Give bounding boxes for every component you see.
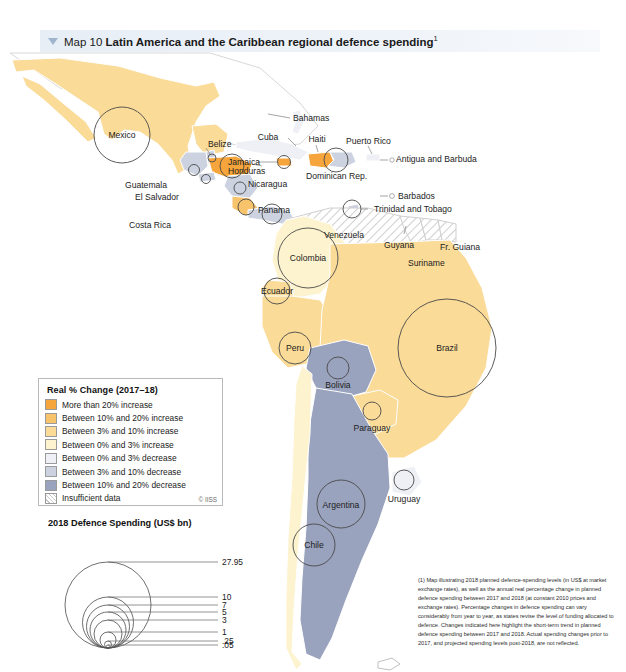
label-dominican-republic: Dominican Rep. bbox=[306, 171, 367, 181]
scale-circle-3 bbox=[94, 620, 122, 648]
spending-scale-legend: 2018 Defence Spending (US$ bn) 27.95 10 bbox=[40, 518, 270, 663]
label-venezuela: Venezuela bbox=[324, 230, 364, 240]
legend-title: Real % Change (2017–18) bbox=[47, 385, 216, 395]
legend-label: Between 10% and 20% increase bbox=[62, 413, 183, 423]
legend-swatch bbox=[45, 466, 57, 477]
label-honduras: Honduras bbox=[228, 166, 265, 176]
legend-label: Between 0% and 3% decrease bbox=[62, 453, 177, 463]
label-belize: Belize bbox=[208, 139, 232, 149]
label-haiti: Haiti bbox=[308, 134, 325, 144]
label-mexico: Mexico bbox=[108, 130, 135, 140]
label-nicaragua: Nicaragua bbox=[248, 179, 287, 189]
legend-item[interactable]: Between 3% and 10% increase bbox=[45, 425, 216, 438]
label-bahamas: Bahamas bbox=[293, 113, 329, 123]
label-fr-guiana: Fr. Guiana bbox=[440, 242, 480, 252]
legend-swatch bbox=[45, 453, 57, 464]
legend-label: Between 3% and 10% decrease bbox=[62, 467, 181, 477]
country-el-salvador bbox=[198, 172, 216, 182]
country-antigua-and-barbuda bbox=[390, 158, 394, 162]
label-cuba: Cuba bbox=[258, 132, 279, 142]
label-bolivia: Bolivia bbox=[325, 380, 351, 390]
label-guatemala: Guatemala bbox=[125, 180, 167, 190]
scale-circle-1 bbox=[100, 632, 116, 648]
legend-item[interactable]: Between 3% and 10% decrease bbox=[45, 465, 216, 478]
country-guatemala bbox=[180, 152, 208, 176]
scale-value: .05 bbox=[222, 640, 234, 650]
legend-swatch bbox=[45, 439, 57, 450]
scale-circle-5 bbox=[90, 612, 126, 648]
legend-label: Between 0% and 3% increase bbox=[62, 440, 174, 450]
label-barbados: Barbados bbox=[398, 191, 435, 201]
label-el-salvador: El Salvador bbox=[135, 192, 179, 202]
label-costa-rica: Costa Rica bbox=[129, 220, 171, 230]
islands-falklands bbox=[378, 658, 400, 670]
legend-item[interactable]: Between 10% and 20% decrease bbox=[45, 478, 216, 491]
country-barbados bbox=[390, 194, 395, 199]
scale-value: 27.95 bbox=[222, 557, 243, 567]
label-paraguay: Paraguay bbox=[354, 423, 391, 433]
legend-panel: Real % Change (2017–18) More than 20% in… bbox=[38, 378, 223, 506]
label-suriname: Suriname bbox=[408, 258, 445, 268]
legend-label: Between 10% and 20% decrease bbox=[62, 480, 186, 490]
legend-swatch bbox=[45, 413, 57, 424]
legend-item[interactable]: Between 0% and 3% increase bbox=[45, 438, 216, 451]
label-puerto-rico: Puerto Rico bbox=[346, 136, 391, 146]
triangle-down-icon[interactable] bbox=[48, 38, 58, 45]
scale-circle-7 bbox=[87, 605, 130, 648]
label-brazil: Brazil bbox=[436, 343, 458, 353]
label-trinidad-and-tobago: Trinidad and Tobago bbox=[374, 204, 452, 214]
legend-item[interactable]: Insufficient data bbox=[45, 492, 216, 505]
label-guyana: Guyana bbox=[384, 240, 414, 250]
legend-swatch bbox=[45, 399, 57, 410]
scale-value: 3 bbox=[222, 615, 227, 625]
label-argentina: Argentina bbox=[323, 500, 360, 510]
legend-item[interactable]: Between 0% and 3% decrease bbox=[45, 452, 216, 465]
scale-title: 2018 Defence Spending (US$ bn) bbox=[48, 518, 270, 528]
legend-label: Insufficient data bbox=[62, 493, 121, 503]
label-chile: Chile bbox=[304, 540, 324, 550]
scale-value-labels: 27.95 10 7 5 3 1 .25 .05 bbox=[222, 557, 243, 650]
page-title: Map 10 Latin America and the Caribbean r… bbox=[64, 34, 438, 48]
map-number: Map 10 bbox=[64, 36, 102, 48]
footnote-text: (1) Map illustrating 2018 planned defenc… bbox=[418, 576, 614, 648]
label-panama: Panama bbox=[258, 205, 290, 215]
legend-swatch bbox=[45, 426, 57, 437]
legend-label: More than 20% increase bbox=[62, 400, 153, 410]
label-antigua-and-barbuda: Antigua and Barbuda bbox=[396, 154, 477, 164]
map-title: Latin America and the Caribbean regional… bbox=[106, 36, 434, 48]
footnote-marker: 1 bbox=[434, 34, 438, 43]
label-uruguay: Uruguay bbox=[388, 494, 421, 504]
legend-swatch-hatched bbox=[45, 493, 57, 504]
label-peru: Peru bbox=[286, 343, 304, 353]
legend-item[interactable]: Between 10% and 20% increase bbox=[45, 411, 216, 424]
label-colombia: Colombia bbox=[290, 253, 327, 263]
iiss-credit: © IISS bbox=[198, 496, 217, 503]
legend-label: Between 3% and 10% increase bbox=[62, 426, 178, 436]
legend-swatch bbox=[45, 480, 57, 491]
label-ecuador: Ecuador bbox=[261, 286, 293, 296]
legend-item[interactable]: More than 20% increase bbox=[45, 398, 216, 411]
country-puerto-rico bbox=[366, 154, 380, 161]
